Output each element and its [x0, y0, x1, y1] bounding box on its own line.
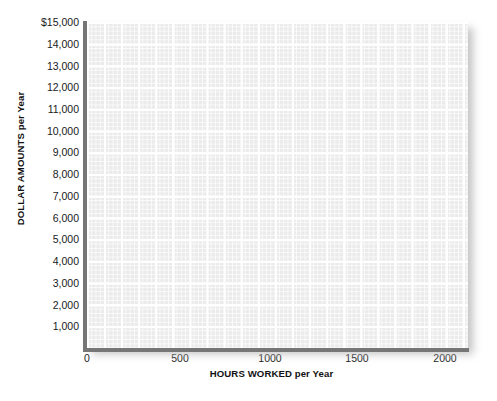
- y-tick-label: 2,000: [13, 300, 79, 311]
- y-axis-title: DOLLAR AMOUNTS per Year: [15, 69, 26, 249]
- y-tick-label: 3,000: [13, 278, 79, 289]
- plot-panel: [87, 22, 468, 348]
- y-tick-label: 1,000: [13, 321, 79, 332]
- x-axis-title-text: HOURS WORKED per Year: [210, 368, 333, 379]
- grid-emphasis: [87, 22, 468, 348]
- x-axis-title: HOURS WORKED per Year: [0, 368, 497, 379]
- y-tick-label: 14,000: [13, 39, 79, 50]
- chart-figure: $15,000 14,000 13,000 12,000 11,000 10,0…: [0, 0, 497, 401]
- y-tick-label: $15,000: [13, 17, 79, 28]
- y-axis-spine: [83, 21, 87, 352]
- x-axis-spine: [83, 348, 469, 352]
- plot-area: [87, 22, 468, 348]
- y-tick-label: 4,000: [13, 256, 79, 267]
